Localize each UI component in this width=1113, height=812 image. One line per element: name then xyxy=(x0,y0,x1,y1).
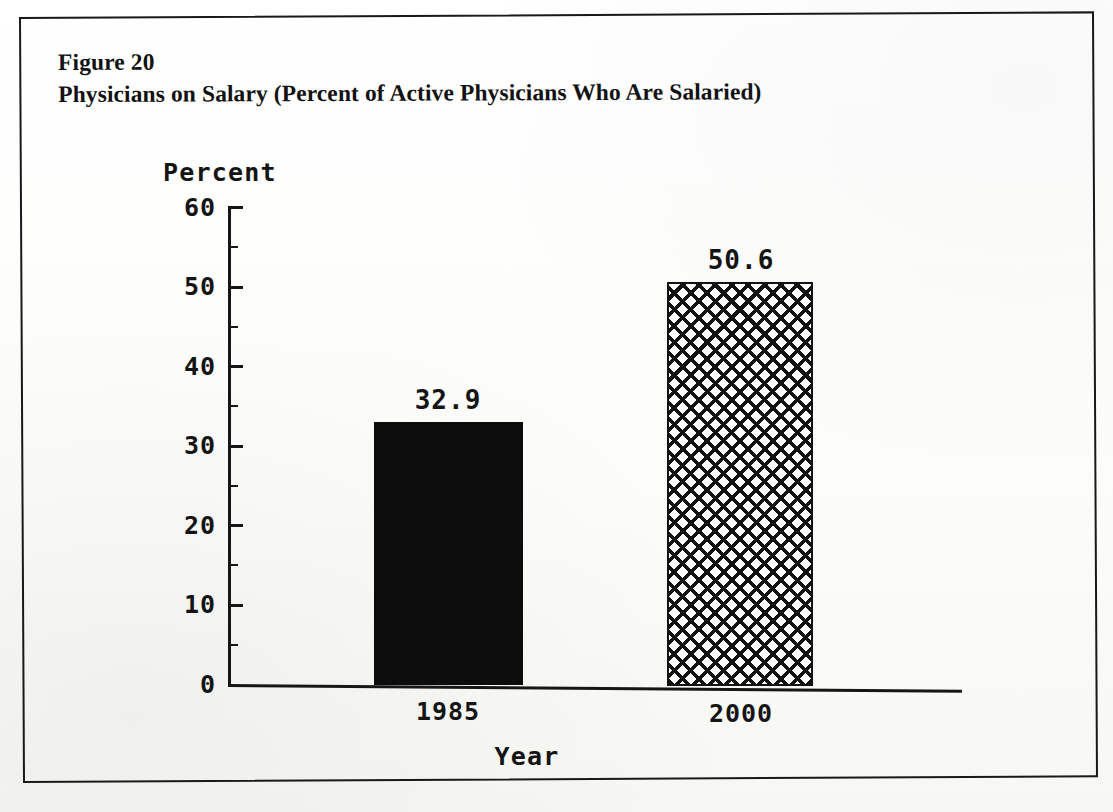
y-tick-major-50 xyxy=(228,286,243,289)
bar-1985[interactable] xyxy=(374,422,523,685)
x-tick-label-2000: 2000 xyxy=(709,699,773,728)
bar-value-label-2000: 50.6 xyxy=(708,245,775,275)
y-tick-label-20: 20 xyxy=(184,511,216,540)
y-tick-label-30: 30 xyxy=(184,431,216,460)
y-tick-label-50: 50 xyxy=(184,272,216,301)
y-tick-label-40: 40 xyxy=(184,352,216,381)
x-tick-label-1985: 1985 xyxy=(416,697,480,726)
y-tick-minor-35 xyxy=(228,405,238,407)
y-tick-major-60 xyxy=(228,206,243,209)
y-tick-label-60: 60 xyxy=(184,193,216,222)
y-tick-major-20 xyxy=(228,524,243,527)
y-tick-minor-55 xyxy=(228,246,238,248)
y-tick-major-10 xyxy=(228,604,243,607)
x-axis-label: Year xyxy=(494,742,559,771)
bar-2000[interactable] xyxy=(667,282,813,686)
y-tick-major-30 xyxy=(228,445,243,448)
y-tick-label-10: 10 xyxy=(184,590,216,619)
y-tick-label-0: 0 xyxy=(200,670,216,699)
bar-value-label-1985: 32.9 xyxy=(415,385,482,415)
x-axis-line xyxy=(228,684,962,692)
y-tick-minor-5 xyxy=(228,644,238,646)
figure-page: Figure 20 Physicians on Salary (Percent … xyxy=(0,0,1113,812)
y-tick-minor-45 xyxy=(228,326,238,328)
y-tick-label-group: 60 50 40 30 20 10 0 xyxy=(150,0,216,812)
chart-plot-area: Percent 60 50 40 30 20 10 0 32.9 50.6 19… xyxy=(0,0,1113,812)
y-tick-minor-15 xyxy=(228,564,238,566)
y-tick-major-40 xyxy=(228,365,243,368)
y-tick-minor-25 xyxy=(228,485,238,487)
